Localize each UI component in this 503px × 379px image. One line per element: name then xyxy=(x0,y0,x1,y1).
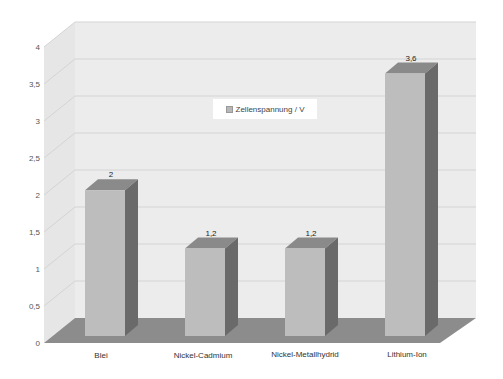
x-axis-labels: BleiNickel-CadmiumNickel-MetallhydridLit… xyxy=(94,350,426,361)
y-tick-label: 4 xyxy=(36,43,41,52)
value-label: 1,2 xyxy=(305,229,317,238)
legend-label: Zellenspannung / V xyxy=(236,105,305,114)
y-tick-label: 1,5 xyxy=(29,228,41,237)
y-tick-label: 1 xyxy=(36,265,41,274)
bar-lithium-ion: 3,6 xyxy=(385,54,438,336)
y-tick-label: 0,5 xyxy=(29,302,41,311)
y-axis-ticks: 00,511,522,533,54 xyxy=(29,43,41,348)
y-tick-label: 2,5 xyxy=(29,154,41,163)
y-tick-label: 2 xyxy=(36,191,41,200)
legend-swatch xyxy=(226,106,233,113)
bar-blei: 2 xyxy=(85,170,138,336)
value-label: 1,2 xyxy=(205,229,217,238)
legend: Zellenspannung / V xyxy=(213,99,317,119)
x-category-label: Lithium-Ion xyxy=(387,350,427,359)
bar-nickel-cadmium: 1,2 xyxy=(185,229,238,336)
x-category-label: Nickel-Cadmium xyxy=(174,351,233,360)
y-tick-label: 0 xyxy=(36,339,41,348)
value-label: 2 xyxy=(109,170,114,179)
y-tick-label: 3,5 xyxy=(29,80,41,89)
x-category-label: Blei xyxy=(94,351,108,360)
y-tick-label: 3 xyxy=(36,117,41,126)
x-category-label: Nickel-Metallhydrid xyxy=(271,350,339,359)
value-label: 3,6 xyxy=(405,54,417,63)
bar-nickel-metallhydrid: 1,2 xyxy=(285,229,338,336)
bar-chart-3d: 00,511,522,533,54 21,21,23,6 BleiNickel-… xyxy=(0,0,503,379)
